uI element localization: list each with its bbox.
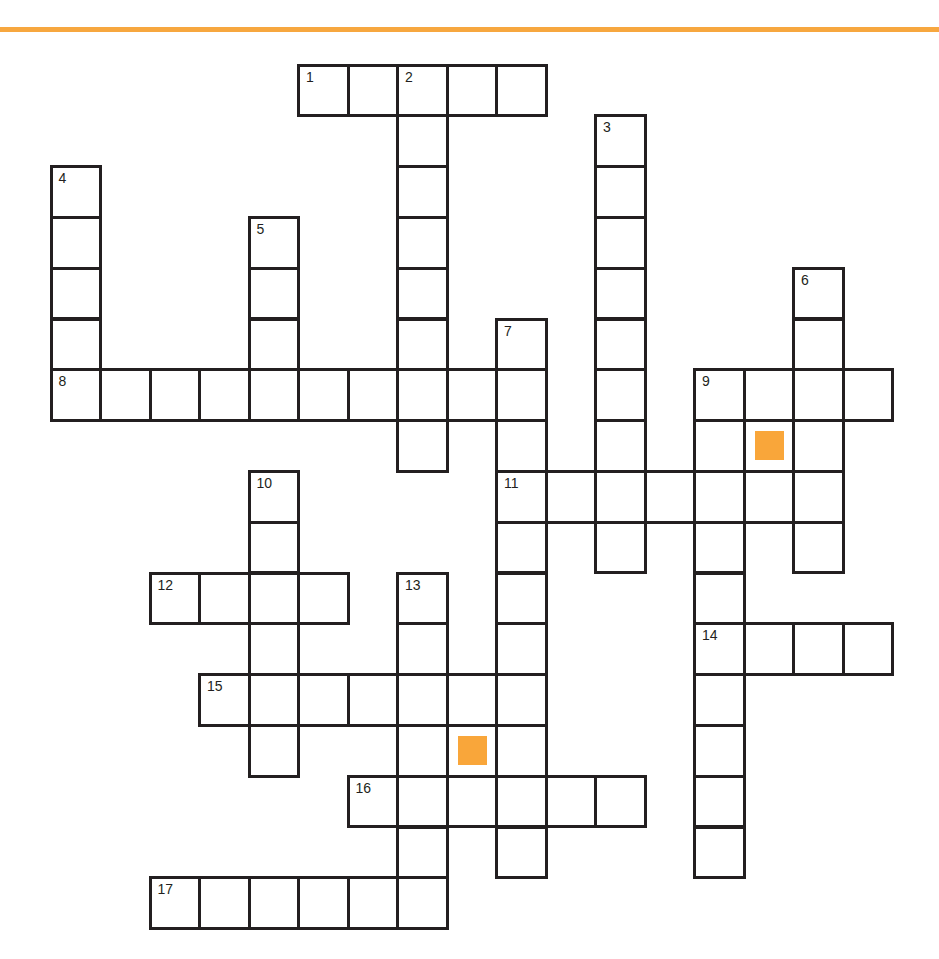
- crossword-cell[interactable]: 12: [149, 572, 202, 626]
- crossword-cell[interactable]: 1: [297, 64, 350, 118]
- crossword-cell[interactable]: [594, 368, 647, 422]
- crossword-cell[interactable]: [396, 419, 449, 473]
- crossword-cell[interactable]: [594, 267, 647, 321]
- crossword-cell[interactable]: [347, 64, 400, 118]
- crossword-cell[interactable]: [248, 267, 301, 321]
- crossword-cell[interactable]: [743, 470, 796, 524]
- crossword-cell[interactable]: [842, 622, 895, 676]
- crossword-cell[interactable]: [396, 267, 449, 321]
- crossword-cell[interactable]: [396, 165, 449, 219]
- crossword-cell[interactable]: 14: [693, 622, 746, 676]
- crossword-cell[interactable]: [792, 368, 845, 422]
- crossword-cell[interactable]: [446, 368, 499, 422]
- crossword-cell[interactable]: [743, 622, 796, 676]
- crossword-cell[interactable]: [743, 368, 796, 422]
- crossword-cell[interactable]: 13: [396, 572, 449, 626]
- crossword-cell[interactable]: 4: [50, 165, 103, 219]
- crossword-cell[interactable]: [50, 216, 103, 270]
- crossword-cell[interactable]: [50, 267, 103, 321]
- crossword-cell[interactable]: [594, 775, 647, 829]
- crossword-cell[interactable]: [495, 622, 548, 676]
- crossword-cell[interactable]: 11: [495, 470, 548, 524]
- crossword-cell[interactable]: [743, 419, 796, 473]
- crossword-cell[interactable]: 6: [792, 267, 845, 321]
- crossword-cell[interactable]: [446, 775, 499, 829]
- crossword-cell[interactable]: [396, 368, 449, 422]
- crossword-cell[interactable]: [693, 572, 746, 626]
- crossword-cell[interactable]: [248, 318, 301, 372]
- crossword-cell[interactable]: [693, 419, 746, 473]
- crossword-cell[interactable]: 15: [198, 673, 251, 727]
- crossword-cell[interactable]: [495, 64, 548, 118]
- crossword-cell[interactable]: [693, 470, 746, 524]
- crossword-cell[interactable]: [297, 572, 350, 626]
- crossword-cell[interactable]: 17: [149, 876, 202, 930]
- crossword-cell[interactable]: [842, 368, 895, 422]
- crossword-cell[interactable]: [495, 775, 548, 829]
- crossword-cell[interactable]: [396, 876, 449, 930]
- crossword-cell[interactable]: [644, 470, 697, 524]
- crossword-cell[interactable]: [792, 521, 845, 575]
- crossword-cell[interactable]: [693, 724, 746, 778]
- crossword-cell[interactable]: [792, 470, 845, 524]
- crossword-cell[interactable]: [446, 64, 499, 118]
- crossword-cell[interactable]: [495, 724, 548, 778]
- crossword-cell[interactable]: [495, 368, 548, 422]
- crossword-cell[interactable]: [446, 673, 499, 727]
- crossword-cell[interactable]: [495, 419, 548, 473]
- crossword-cell[interactable]: [347, 876, 400, 930]
- crossword-cell[interactable]: [495, 572, 548, 626]
- crossword-cell[interactable]: [347, 673, 400, 727]
- crossword-cell[interactable]: [446, 724, 499, 778]
- crossword-cell[interactable]: [149, 368, 202, 422]
- crossword-cell[interactable]: [495, 673, 548, 727]
- crossword-cell[interactable]: 3: [594, 114, 647, 168]
- crossword-cell[interactable]: [396, 724, 449, 778]
- crossword-cell[interactable]: [594, 216, 647, 270]
- crossword-cell[interactable]: 9: [693, 368, 746, 422]
- crossword-cell[interactable]: [594, 470, 647, 524]
- crossword-cell[interactable]: [99, 368, 152, 422]
- crossword-cell[interactable]: [248, 622, 301, 676]
- crossword-cell[interactable]: [248, 673, 301, 727]
- crossword-cell[interactable]: [792, 419, 845, 473]
- crossword-cell[interactable]: [396, 622, 449, 676]
- crossword-cell[interactable]: [495, 826, 548, 880]
- crossword-cell[interactable]: [594, 318, 647, 372]
- crossword-cell[interactable]: [545, 775, 598, 829]
- crossword-cell[interactable]: 16: [347, 775, 400, 829]
- crossword-cell[interactable]: 8: [50, 368, 103, 422]
- crossword-cell[interactable]: [248, 724, 301, 778]
- crossword-cell[interactable]: [396, 114, 449, 168]
- crossword-cell[interactable]: [248, 368, 301, 422]
- crossword-cell[interactable]: 2: [396, 64, 449, 118]
- crossword-cell[interactable]: [693, 521, 746, 575]
- crossword-cell[interactable]: [50, 318, 103, 372]
- crossword-cell[interactable]: [248, 521, 301, 575]
- crossword-cell[interactable]: [693, 826, 746, 880]
- crossword-cell[interactable]: [792, 318, 845, 372]
- crossword-cell[interactable]: [396, 216, 449, 270]
- crossword-cell[interactable]: [792, 622, 845, 676]
- crossword-cell[interactable]: [594, 521, 647, 575]
- crossword-cell[interactable]: [396, 318, 449, 372]
- crossword-cell[interactable]: [198, 368, 251, 422]
- crossword-cell[interactable]: [545, 470, 598, 524]
- crossword-cell[interactable]: [248, 876, 301, 930]
- crossword-cell[interactable]: [198, 572, 251, 626]
- crossword-cell[interactable]: 7: [495, 318, 548, 372]
- crossword-cell[interactable]: [495, 521, 548, 575]
- crossword-cell[interactable]: 5: [248, 216, 301, 270]
- crossword-cell[interactable]: [594, 419, 647, 473]
- crossword-cell[interactable]: [693, 775, 746, 829]
- crossword-cell[interactable]: [297, 876, 350, 930]
- crossword-cell[interactable]: [396, 673, 449, 727]
- crossword-cell[interactable]: [297, 673, 350, 727]
- crossword-cell[interactable]: [594, 165, 647, 219]
- crossword-cell[interactable]: [396, 826, 449, 880]
- crossword-cell[interactable]: [198, 876, 251, 930]
- crossword-cell[interactable]: [248, 572, 301, 626]
- crossword-cell[interactable]: [297, 368, 350, 422]
- crossword-cell[interactable]: [347, 368, 400, 422]
- crossword-cell[interactable]: [693, 673, 746, 727]
